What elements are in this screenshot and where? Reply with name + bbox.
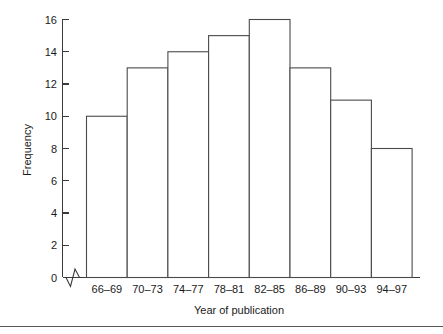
x-tick-label: 70–73 (132, 283, 163, 295)
bar-4 (249, 20, 290, 278)
y-tick-label: 0 (51, 272, 57, 284)
y-axis-tick-labels: 16 14 12 10 8 6 4 2 0 (45, 14, 57, 284)
x-tick-label: 74–77 (173, 283, 204, 295)
footer-divider (0, 326, 443, 327)
x-axis-tick-labels: 66–69 70–73 74–77 78–81 82–85 86–89 90–9… (92, 283, 407, 295)
x-tick-label: 66–69 (92, 283, 123, 295)
y-axis-title: Frequency (21, 124, 33, 176)
bar-6 (331, 100, 372, 277)
x-tick-label: 94–97 (376, 283, 407, 295)
bar-2 (168, 52, 209, 278)
y-tick-label: 10 (45, 110, 57, 122)
y-tick-label: 2 (51, 239, 57, 251)
x-tick-label: 86–89 (295, 283, 326, 295)
y-tick-label: 12 (45, 78, 57, 90)
bar-3 (209, 36, 250, 278)
histogram-chart: 16 14 12 10 8 6 4 2 0 66–69 70–73 7 (0, 0, 443, 334)
bar-5 (290, 68, 331, 278)
histogram-figure: 16 14 12 10 8 6 4 2 0 66–69 70–73 7 (0, 0, 443, 334)
y-tick-label: 14 (45, 46, 57, 58)
y-axis-ticks (63, 20, 70, 278)
x-tick-label: 90–93 (336, 283, 367, 295)
bar-7 (371, 149, 412, 278)
x-axis-title: Year of publication (194, 304, 284, 316)
x-tick-label: 82–85 (254, 283, 285, 295)
bar-0 (87, 116, 128, 277)
bars-group (87, 20, 413, 278)
y-tick-label: 8 (51, 143, 57, 155)
y-tick-label: 4 (51, 207, 57, 219)
x-tick-label: 78–81 (214, 283, 245, 295)
y-tick-label: 6 (51, 175, 57, 187)
y-tick-label: 16 (45, 14, 57, 26)
bar-1 (127, 68, 168, 278)
